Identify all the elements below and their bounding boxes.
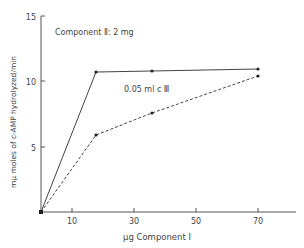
x-ticks xyxy=(72,208,258,212)
series-dashed-line xyxy=(41,76,258,212)
y-tick-label-5: 5 xyxy=(31,144,36,153)
y-tick-label-15: 15 xyxy=(26,13,36,22)
x-tick-label-30: 30 xyxy=(129,217,139,226)
x-tick-label-10: 10 xyxy=(67,217,77,226)
x-tick-label-50: 50 xyxy=(191,217,201,226)
x-axis-label: µg Component I xyxy=(123,232,191,242)
x-tick-label-70: 70 xyxy=(253,217,263,226)
y-tick-label-10: 10 xyxy=(26,78,36,87)
annotation-component-ii: Component Ⅱ: 2 mg xyxy=(55,28,134,37)
annotation-c-iii: 0.05 ml c Ⅲ xyxy=(124,85,169,94)
y-ticks xyxy=(41,16,45,147)
chart: 15 10 5 10 30 50 70 µg Component I mµ mo… xyxy=(0,0,304,248)
y-axis-label: mµ moles of c-AMP hydrolyzed/min xyxy=(9,56,18,188)
